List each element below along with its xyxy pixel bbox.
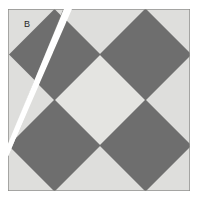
tiling-figure-svg: B <box>0 0 198 207</box>
piece-b-label: B <box>24 19 30 29</box>
geometric-figure-container: B <box>0 0 198 207</box>
